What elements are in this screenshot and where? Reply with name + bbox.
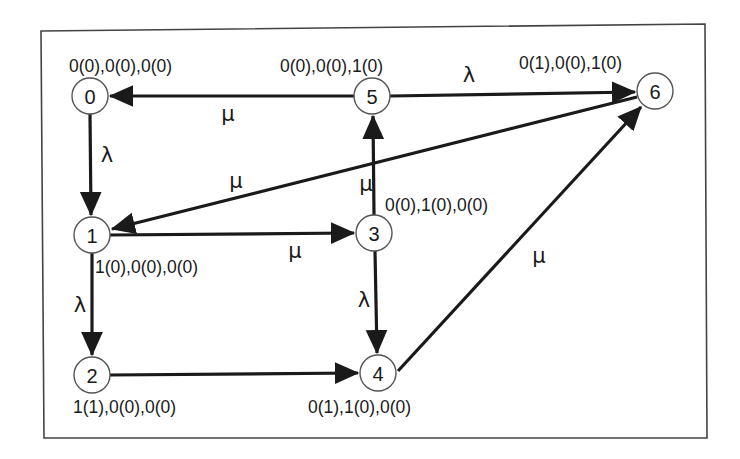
edge-1-to-3	[110, 233, 354, 235]
rate-label-3-to-5: μ	[359, 172, 372, 196]
state-label-node-3: 0(0),1(0),0(0)	[385, 195, 488, 215]
node-2-label: 2	[86, 365, 97, 387]
edge-0-to-1	[90, 114, 91, 215]
node-3: 3	[356, 215, 392, 251]
node-5-label: 5	[366, 86, 377, 108]
rate-label-1-to-3: μ	[288, 239, 301, 263]
node-5: 5	[354, 78, 390, 114]
node-6: 6	[637, 73, 673, 109]
node-4: 4	[360, 355, 396, 391]
edge-5-to-6	[390, 92, 635, 96]
edge-3-to-5	[373, 116, 374, 215]
state-label-node-2: 1(1),0(0),0(0)	[73, 397, 176, 417]
node-1-label: 1	[86, 225, 97, 247]
state-label-node-5: 0(0),0(0),1(0)	[280, 56, 383, 76]
state-transition-diagram: μ λ λ μ μ μ λ λ μ 0(0),0(0),0(0) 0(0),0(…	[0, 0, 740, 459]
rate-label-0-to-1: λ	[101, 143, 113, 167]
rate-label-6-to-1: μ	[229, 169, 242, 193]
rate-label-4-to-6: μ	[532, 244, 545, 268]
node-0-label: 0	[84, 86, 95, 108]
edge-2-to-4	[110, 373, 358, 375]
node-3-label: 3	[368, 223, 379, 245]
state-label-node-0: 0(0),0(0),0(0)	[69, 56, 172, 76]
state-label-node-4: 0(1),1(0),0(0)	[308, 397, 411, 417]
node-0: 0	[72, 78, 108, 114]
rate-label-5-to-0: μ	[221, 102, 234, 126]
edge-3-to-4	[375, 251, 377, 353]
rate-labels: μ λ λ μ μ μ λ λ μ	[74, 63, 546, 317]
state-label-node-6: 0(1),0(0),1(0)	[519, 53, 622, 73]
node-2: 2	[74, 357, 110, 393]
node-4-label: 4	[372, 363, 383, 385]
rate-label-3-to-4: λ	[358, 288, 370, 312]
node-1: 1	[74, 217, 110, 253]
state-label-node-1: 1(0),0(0),0(0)	[95, 257, 198, 277]
node-6-label: 6	[649, 81, 660, 103]
rate-label-5-to-6: λ	[463, 63, 475, 87]
rate-label-1-to-2: λ	[74, 293, 86, 317]
